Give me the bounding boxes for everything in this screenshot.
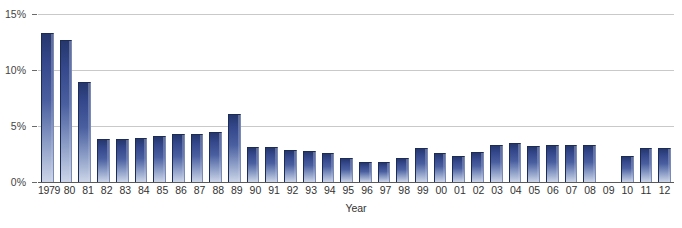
bar (153, 136, 166, 182)
bar (209, 132, 222, 182)
bar-slot (150, 14, 169, 182)
bar (135, 138, 148, 182)
x-axis-label: 81 (79, 184, 98, 196)
bar-slot (356, 14, 375, 182)
bar-slot (281, 14, 300, 182)
ytick-label-15: 15% (0, 8, 26, 20)
bar-series (38, 14, 674, 182)
bar-slot (132, 14, 151, 182)
bar (303, 151, 316, 182)
x-axis-label: 08 (581, 184, 600, 196)
bar-slot (637, 14, 656, 182)
bar (172, 134, 185, 182)
bar (434, 153, 447, 182)
ytick-mark-0 (32, 182, 37, 183)
bar (471, 152, 484, 182)
bar-slot (188, 14, 207, 182)
bar (191, 134, 204, 182)
x-axis-label: 86 (172, 184, 191, 196)
bar-slot (506, 14, 525, 182)
x-axis-label: 06 (544, 184, 563, 196)
ytick-mark-10 (32, 70, 37, 71)
bar-slot (543, 14, 562, 182)
x-axis-title: Year (38, 202, 674, 214)
bar (284, 150, 297, 182)
x-axis-label: 80 (60, 184, 79, 196)
bar-slot (38, 14, 57, 182)
x-axis-label: 84 (135, 184, 154, 196)
bar-slot (487, 14, 506, 182)
bar (228, 114, 241, 182)
x-axis-label: 89 (228, 184, 247, 196)
x-axis-label: 87 (190, 184, 209, 196)
bar-slot (375, 14, 394, 182)
bar (78, 82, 91, 182)
x-axis-label: 88 (209, 184, 228, 196)
x-axis-label: 09 (599, 184, 618, 196)
x-axis-label: 96 (358, 184, 377, 196)
x-axis-label: 12 (655, 184, 674, 196)
bar-slot (449, 14, 468, 182)
bar-chart: 15% 10% 5% 0% 19798081828384858687888990… (0, 0, 682, 228)
bar-slot (655, 14, 674, 182)
bar-slot (94, 14, 113, 182)
x-axis-label: 85 (153, 184, 172, 196)
bar-slot (225, 14, 244, 182)
bar-slot (468, 14, 487, 182)
bar (340, 158, 353, 182)
x-axis-label: 99 (413, 184, 432, 196)
bar-slot (431, 14, 450, 182)
x-axis-label: 90 (246, 184, 265, 196)
bar (378, 162, 391, 182)
bar (546, 145, 559, 182)
x-axis-label: 97 (376, 184, 395, 196)
bar (359, 162, 372, 182)
bar (509, 143, 522, 182)
x-axis-label: 01 (451, 184, 470, 196)
bar-slot (580, 14, 599, 182)
bar-slot (113, 14, 132, 182)
bar-slot (599, 14, 618, 182)
bar-slot (169, 14, 188, 182)
ytick-label-10: 10% (0, 64, 26, 76)
ytick-label-0: 0% (0, 176, 26, 188)
x-axis-labels: 1979808182838485868788899091929394959697… (38, 184, 674, 196)
x-axis-label: 82 (97, 184, 116, 196)
x-axis-label: 91 (265, 184, 284, 196)
ytick-mark-5 (32, 126, 37, 127)
bar (415, 148, 428, 182)
bar (396, 158, 409, 182)
x-axis-label: 93 (302, 184, 321, 196)
bar (322, 153, 335, 182)
bar (527, 146, 540, 182)
x-axis-label: 10 (618, 184, 637, 196)
x-axis-label: 94 (320, 184, 339, 196)
bar-slot (524, 14, 543, 182)
x-axis-label: 00 (432, 184, 451, 196)
x-axis-label: 83 (116, 184, 135, 196)
bar (565, 145, 578, 182)
bar (583, 145, 596, 182)
bar-slot (319, 14, 338, 182)
bar (265, 147, 278, 182)
bar-slot (618, 14, 637, 182)
bar (41, 33, 54, 182)
ytick-label-5: 5% (0, 120, 26, 132)
axis-baseline (38, 182, 674, 183)
x-axis-label: 03 (488, 184, 507, 196)
bar (490, 145, 503, 182)
bar (97, 139, 110, 182)
bar (60, 40, 73, 182)
bar-slot (244, 14, 263, 182)
x-axis-label: 98 (395, 184, 414, 196)
bar (116, 139, 129, 182)
bar (452, 156, 465, 182)
ytick-mark-15 (32, 14, 37, 15)
bar-slot (75, 14, 94, 182)
bar-slot (57, 14, 76, 182)
bar-slot (300, 14, 319, 182)
x-axis-label: 02 (469, 184, 488, 196)
x-axis-label: 95 (339, 184, 358, 196)
bar (658, 148, 671, 182)
bar-slot (393, 14, 412, 182)
